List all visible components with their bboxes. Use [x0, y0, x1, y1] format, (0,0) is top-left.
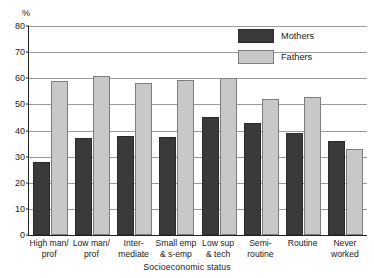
- legend-swatch-mothers: [238, 29, 274, 43]
- y-axis-tick-label: 20: [15, 178, 25, 187]
- bar-group: [156, 26, 198, 235]
- bar-group: [71, 26, 113, 235]
- x-axis-tick-labels: High man/ profLow man/ profInter- mediat…: [28, 238, 366, 259]
- bar-fathers: [346, 149, 363, 235]
- y-axis-tick-label: 70: [15, 48, 25, 57]
- x-axis-title: Socioeconomic status: [0, 262, 374, 272]
- bar-mothers: [33, 162, 50, 235]
- x-axis-tick-label: Semi- routine: [239, 238, 281, 259]
- y-axis-tick-label: 40: [15, 126, 25, 135]
- plot-area: 01020304050607080: [28, 26, 367, 236]
- legend-swatch-fathers: [238, 50, 274, 64]
- y-axis-tick-label: 60: [15, 74, 25, 83]
- bar-mothers: [244, 123, 261, 235]
- bar-fathers: [135, 83, 152, 235]
- y-axis-tick-label: 50: [15, 100, 25, 109]
- x-axis-tick-label: Small emp & s-emp: [155, 238, 197, 259]
- legend-label: Fathers: [281, 52, 312, 62]
- x-axis-tick-label: Inter- mediate: [113, 238, 155, 259]
- bar-mothers: [117, 136, 134, 235]
- x-axis-tick-label: Low man/ prof: [70, 238, 112, 259]
- y-axis-tick-label: 30: [15, 152, 25, 161]
- x-axis-tick-label: Low sup & tech: [197, 238, 239, 259]
- bar-fathers: [51, 81, 68, 235]
- legend-label: Mothers: [281, 31, 314, 41]
- bar-mothers: [286, 133, 303, 235]
- bar-fathers: [304, 97, 321, 235]
- bar-mothers: [75, 138, 92, 235]
- x-axis-tick-label: High man/ prof: [28, 238, 70, 259]
- bar-group: [198, 26, 240, 235]
- bar-group: [325, 26, 367, 235]
- y-axis-tick-label: 0: [20, 231, 25, 240]
- bars-layer: [29, 26, 367, 235]
- bar-chart-figure: % 01020304050607080 High man/ profLow ma…: [0, 0, 374, 278]
- bar-group: [114, 26, 156, 235]
- x-axis-tick-label: Never worked: [324, 238, 366, 259]
- bar-fathers: [177, 80, 194, 235]
- x-axis-tick-label: Routine: [282, 238, 324, 259]
- bar-mothers: [202, 117, 219, 235]
- y-axis-tick-label: 80: [15, 22, 25, 31]
- bar-fathers: [93, 76, 110, 235]
- bar-mothers: [328, 141, 345, 235]
- legend-item-mothers: Mothers: [238, 29, 314, 43]
- bar-fathers: [220, 78, 237, 235]
- bar-mothers: [159, 137, 176, 235]
- legend: MothersFathers: [238, 29, 314, 71]
- bar-group: [29, 26, 71, 235]
- legend-item-fathers: Fathers: [238, 50, 314, 64]
- y-axis-tick-label: 10: [15, 204, 25, 213]
- bar-fathers: [262, 99, 279, 235]
- y-axis-unit-label: %: [22, 8, 30, 18]
